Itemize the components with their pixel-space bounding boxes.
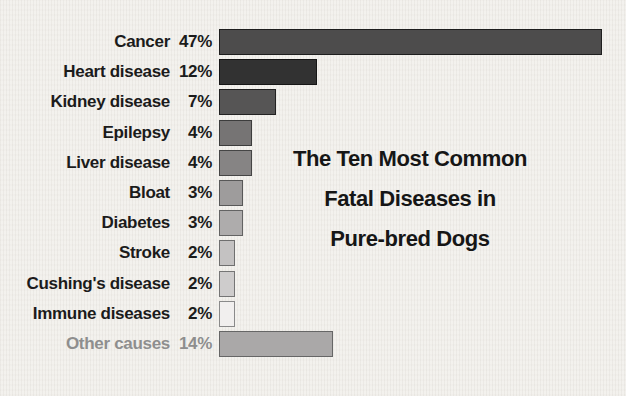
bar (219, 301, 235, 327)
value-label: 47% (170, 32, 212, 52)
category-label: Cushing's disease (0, 274, 170, 294)
value-label: 2% (170, 243, 212, 263)
category-label: Immune diseases (0, 304, 170, 324)
value-label: 4% (170, 153, 212, 173)
category-label: Bloat (0, 183, 170, 203)
chart-row: Cushing's disease 2% (0, 269, 626, 299)
chart-row: Heart disease 12% (0, 57, 626, 87)
value-label: 2% (170, 274, 212, 294)
chart-row: Immune diseases 2% (0, 299, 626, 329)
bar (219, 150, 252, 176)
chart-title-line-3: Pure-bred Dogs (283, 219, 537, 259)
chart-row: Cancer 47% (0, 27, 626, 57)
bar (219, 180, 243, 206)
value-label: 7% (170, 92, 212, 112)
value-label: 14% (170, 334, 212, 354)
chart-row: Kidney disease 7% (0, 87, 626, 117)
value-label: 3% (170, 183, 212, 203)
category-label: Kidney disease (0, 92, 170, 112)
category-label: Heart disease (0, 62, 170, 82)
category-label: Stroke (0, 243, 170, 263)
bar (219, 89, 276, 115)
chart-title: The Ten Most Common Fatal Diseases in Pu… (283, 139, 537, 259)
category-label: Diabetes (0, 213, 170, 233)
category-label: Liver disease (0, 153, 170, 173)
bar (219, 59, 317, 85)
category-label: Cancer (0, 32, 170, 52)
category-label: Epilepsy (0, 123, 170, 143)
bar (219, 29, 602, 55)
category-label: Other causes (0, 334, 170, 354)
bar (219, 120, 252, 146)
value-label: 3% (170, 213, 212, 233)
chart-row: Other causes 14% (0, 329, 626, 359)
fatal-diseases-bar-chart: Cancer 47% Heart disease 12% Kidney dise… (0, 0, 626, 396)
bar (219, 331, 333, 357)
chart-title-line-1: The Ten Most Common (283, 139, 537, 179)
bar (219, 210, 243, 236)
bar (219, 240, 235, 266)
chart-title-line-2: Fatal Diseases in (283, 179, 537, 219)
bar (219, 271, 235, 297)
value-label: 12% (170, 62, 212, 82)
value-label: 4% (170, 123, 212, 143)
value-label: 2% (170, 304, 212, 324)
